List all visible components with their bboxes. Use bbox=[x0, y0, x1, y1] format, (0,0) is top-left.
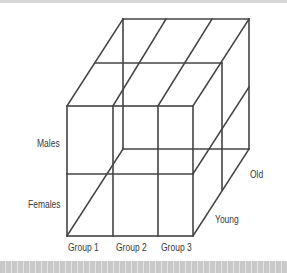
front-face bbox=[67, 106, 193, 236]
depth-label-old: Old bbox=[250, 169, 263, 180]
column-label-group-3: Group 3 bbox=[161, 242, 192, 253]
column-label-group-2: Group 2 bbox=[116, 242, 147, 253]
bottom-border bbox=[0, 261, 287, 273]
row-label-females: Females bbox=[28, 199, 61, 210]
depth-label-young: Young bbox=[215, 214, 239, 225]
column-label-group-1: Group 1 bbox=[68, 242, 99, 253]
row-label-males: Males bbox=[37, 138, 60, 149]
cube-grid-diagram bbox=[0, 0, 287, 273]
